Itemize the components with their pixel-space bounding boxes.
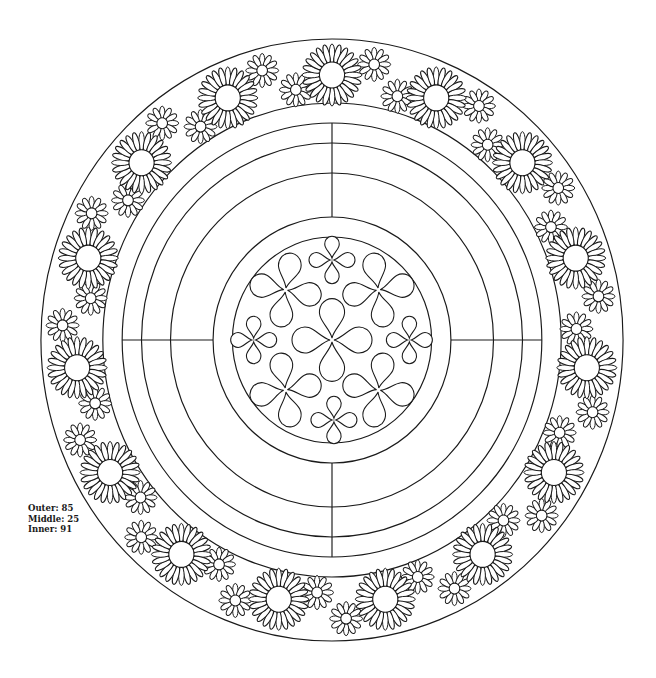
daisy-center (574, 355, 599, 381)
daisy-center (98, 460, 123, 486)
clover-petal (368, 351, 396, 390)
large-daisy (453, 523, 513, 585)
clover-petal (327, 396, 342, 418)
small-daisy (358, 47, 391, 81)
mandala-root (41, 39, 623, 641)
clover-petal (386, 332, 407, 347)
daisy-center (587, 407, 598, 418)
ring (171, 173, 494, 507)
daisy-center (510, 150, 535, 176)
clover-petal (248, 379, 286, 408)
daisy-center (373, 586, 398, 612)
legend-inner: Inner: 91 (28, 524, 79, 535)
daisy-center (57, 320, 68, 331)
daisy-center (230, 595, 241, 606)
daisy-center (341, 613, 352, 624)
clover-petal (402, 342, 417, 364)
daisy-center (291, 84, 302, 95)
daisy-center (470, 541, 495, 567)
clover-petal (311, 412, 332, 427)
daisy-center (76, 245, 101, 271)
daisy-center (571, 323, 582, 334)
daisy-center (215, 85, 240, 111)
small-daisy (219, 583, 252, 617)
daisy-center (86, 208, 97, 219)
daisy-center (266, 586, 291, 612)
clover-petal (246, 316, 261, 338)
clover-flower (309, 236, 355, 284)
daisy-center (129, 150, 154, 176)
small-daisy (75, 196, 108, 230)
daisy-center (424, 85, 449, 111)
legend-outer: Outer: 85 (28, 503, 79, 514)
clover-petal (275, 251, 303, 290)
daisy-center (412, 571, 423, 582)
small-daisy (46, 308, 79, 342)
daisy-center (257, 65, 268, 76)
large-daisy (355, 568, 415, 630)
legend-middle: Middle: 25 (28, 514, 79, 525)
daisy-center (498, 515, 509, 526)
clover-petal (341, 279, 379, 308)
daisy-center (319, 62, 344, 88)
daisy-center (553, 183, 564, 194)
clover-petal (319, 342, 344, 381)
clover-petal (325, 262, 340, 284)
small-daisy (125, 520, 158, 554)
small-daisy (438, 572, 471, 606)
daisy-center (369, 59, 380, 70)
daisy-center (392, 91, 403, 102)
clover-petal (341, 372, 379, 401)
daisy-center (90, 398, 101, 409)
large-daisy (406, 67, 466, 129)
clover-petal (361, 251, 389, 290)
daisy-center (593, 291, 604, 302)
clover-petal (319, 299, 344, 338)
clover-petal (292, 327, 330, 353)
clover-flower (311, 396, 357, 444)
daisy-center (449, 583, 460, 594)
large-daisy (151, 523, 211, 585)
small-daisy (582, 279, 615, 313)
clover-petal (334, 327, 372, 353)
clover-petal (334, 252, 355, 267)
clover-petal (327, 422, 342, 444)
large-daisy (302, 44, 362, 106)
clover-petal (361, 390, 389, 429)
crosshair-lines (122, 123, 542, 557)
daisy-center (541, 460, 566, 486)
daisy-center (135, 492, 146, 503)
daisy-center (482, 139, 493, 150)
daisy-center (85, 293, 96, 304)
daisy-center (75, 434, 86, 445)
clover-petal (256, 332, 277, 347)
clover-petal (268, 290, 296, 329)
clover-petal (368, 290, 396, 329)
large-daisy (47, 337, 107, 399)
daisy-center (123, 195, 134, 206)
daisy-center (546, 222, 557, 233)
large-daisy (198, 67, 258, 129)
large-daisy (80, 442, 140, 504)
clover-petal (325, 236, 340, 258)
large-daisy (249, 568, 309, 630)
daisy-center (554, 427, 565, 438)
clover-petal (286, 279, 324, 308)
clover-flower (292, 299, 372, 382)
small-daisy (576, 395, 609, 429)
daisy-center (157, 118, 168, 129)
clover-petal (231, 332, 252, 347)
clover-flower (231, 316, 277, 364)
clover-petal (286, 372, 324, 401)
clover-petal (248, 272, 286, 301)
clover-petal (378, 272, 416, 301)
large-daisy (492, 132, 552, 194)
clover-petal (336, 412, 357, 427)
small-daisy (462, 89, 495, 123)
daisy-center (312, 587, 323, 598)
legend: Outer: 85 Middle: 25 Inner: 91 (28, 503, 79, 535)
large-daisy (58, 227, 118, 289)
clover-petal (402, 316, 417, 338)
daisy-center (214, 559, 225, 570)
daisy-center (536, 510, 547, 521)
